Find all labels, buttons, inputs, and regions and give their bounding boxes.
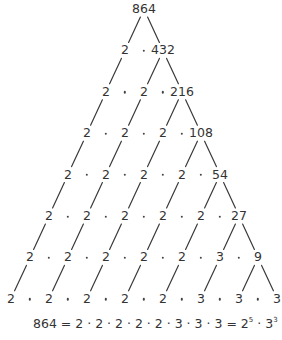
tree-branch	[110, 58, 122, 83]
tree-branch	[91, 100, 103, 125]
tree-branch	[205, 265, 217, 290]
tree-branch	[91, 183, 103, 208]
tree-node: 2	[121, 126, 129, 140]
tree-branch	[148, 224, 160, 249]
tree-branch	[129, 183, 141, 208]
equals-sign: =	[226, 316, 236, 331]
tree-node: 3	[273, 292, 281, 306]
tree-branch	[205, 183, 217, 208]
tree-branch	[205, 141, 217, 166]
tree-branch	[129, 100, 141, 125]
tree-node: 2	[26, 250, 34, 264]
tree-branch	[167, 58, 179, 83]
tree-branch	[243, 265, 255, 290]
tree-node: 2	[178, 168, 186, 182]
tree-branch	[243, 224, 255, 249]
power-term-3: 33	[265, 316, 277, 331]
prime-factorization-equation: 864 = 2 · 2 · 2 · 2 · 2 · 3 · 3 · 3 = 25…	[33, 316, 278, 331]
tree-node: 2	[102, 168, 110, 182]
tree-branch	[186, 100, 198, 125]
tree-node: 2	[159, 126, 167, 140]
tree-branch	[167, 183, 179, 208]
tree-branch	[53, 265, 65, 290]
tree-node: 2	[140, 250, 148, 264]
tree-branch	[148, 58, 160, 83]
tree-branch	[186, 141, 198, 166]
tree-branch	[129, 17, 141, 42]
tree-node: 108	[189, 126, 213, 140]
tree-node: 2	[45, 292, 53, 306]
tree-branch	[148, 141, 160, 166]
tree-branch	[224, 224, 236, 249]
tree-node: 2	[140, 168, 148, 182]
tree-branch	[91, 265, 103, 290]
equation-lhs: 864	[33, 316, 57, 331]
tree-node: 2	[140, 85, 148, 99]
tree-node: 2	[102, 250, 110, 264]
tree-node: 2	[121, 292, 129, 306]
tree-node: 432	[151, 43, 175, 57]
tree-branch	[129, 265, 141, 290]
tree-node: 2	[64, 250, 72, 264]
tree-node: 2	[197, 209, 205, 223]
multiply-dot: ·	[253, 316, 265, 331]
tree-node: 2	[102, 85, 110, 99]
tree-node: 3	[235, 292, 243, 306]
tree-branch	[15, 265, 27, 290]
tree-node: 2	[121, 209, 129, 223]
expanded-product: 2 · 2 · 2 · 2 · 2 · 3 · 3 · 3	[75, 316, 222, 331]
tree-branch	[110, 141, 122, 166]
tree-branch	[72, 224, 84, 249]
tree-branch	[186, 224, 198, 249]
tree-node: 2	[7, 292, 15, 306]
tree-node: 9	[254, 250, 262, 264]
tree-branch	[167, 100, 179, 125]
tree-branch	[224, 183, 236, 208]
equals-sign: =	[61, 316, 71, 331]
tree-node: 2	[64, 168, 72, 182]
tree-branch	[167, 265, 179, 290]
tree-node: 2	[159, 292, 167, 306]
tree-node: 2	[45, 209, 53, 223]
tree-node: 216	[170, 85, 194, 99]
tree-branch	[110, 224, 122, 249]
tree-node: 864	[132, 2, 156, 16]
tree-branch	[262, 265, 274, 290]
tree-node: 54	[212, 168, 228, 182]
tree-node: 3	[197, 292, 205, 306]
tree-node: 2	[83, 292, 91, 306]
tree-branch	[53, 183, 65, 208]
tree-branch	[148, 17, 160, 42]
tree-node: 2	[159, 209, 167, 223]
tree-node: 2	[83, 126, 91, 140]
tree-node: 2	[121, 43, 129, 57]
tree-branch	[34, 224, 46, 249]
tree-branch	[72, 141, 84, 166]
tree-node: 3	[216, 250, 224, 264]
tree-node: 2	[83, 209, 91, 223]
power-term-2: 25	[241, 316, 253, 331]
tree-node: 27	[231, 209, 247, 223]
tree-node: 2	[178, 250, 186, 264]
